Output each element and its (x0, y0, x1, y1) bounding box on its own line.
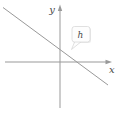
y-axis-arrowhead (58, 5, 62, 12)
y-axis-label: y (48, 4, 55, 15)
tooltip-label-h: h (78, 30, 84, 40)
line-h[interactable] (3, 8, 108, 86)
figure-canvas: x y h (0, 0, 123, 118)
x-axis-label: x (109, 64, 115, 75)
label-tooltip[interactable]: h (72, 27, 92, 50)
coordinate-plane-figure: x y h (0, 0, 123, 118)
